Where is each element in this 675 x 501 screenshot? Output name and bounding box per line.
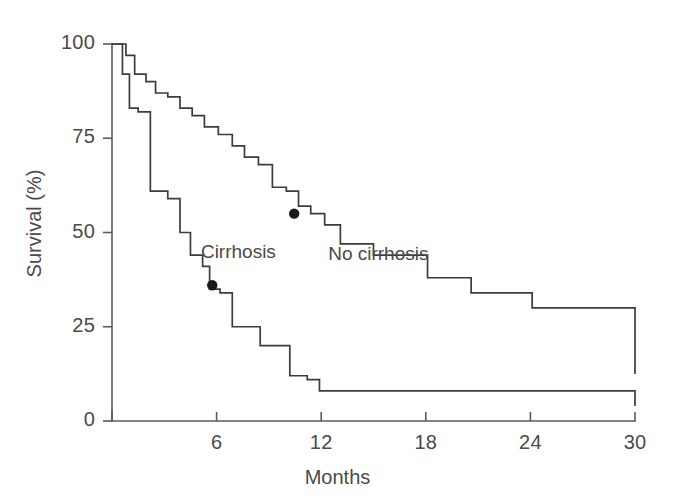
y-axis-ticks	[103, 44, 112, 421]
y-tick-label-100: 100	[35, 31, 95, 54]
series-label-no-cirrhosis: No cirrhosis	[328, 243, 428, 265]
x-tick-label-12: 12	[291, 431, 351, 454]
x-tick-label-24: 24	[500, 431, 560, 454]
series-label-cirrhosis: Cirrhosis	[201, 241, 276, 263]
curve-cirrhosis	[112, 44, 635, 406]
x-axis-title: Months	[0, 466, 675, 489]
survival-chart-figure: 0255075100 612182430 Cirrhosis No cirrho…	[0, 0, 675, 501]
x-tick-label-18: 18	[396, 431, 456, 454]
marker-dot-median-cirrhosis	[207, 280, 217, 290]
x-tick-label-6: 6	[187, 431, 247, 454]
x-axis-ticks	[217, 412, 635, 421]
marker-dot-median-no-cirrhosis	[289, 208, 299, 218]
x-tick-label-30: 30	[605, 431, 665, 454]
curve-no-cirrhosis	[112, 44, 635, 374]
y-axis-title: Survival (%)	[23, 114, 46, 334]
y-tick-label-0: 0	[35, 408, 95, 431]
curves-group	[112, 44, 635, 406]
